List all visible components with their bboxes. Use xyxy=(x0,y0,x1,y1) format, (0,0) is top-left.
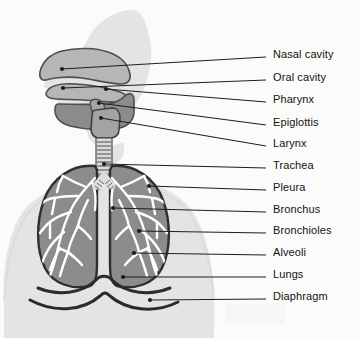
anchor-dot-trachea xyxy=(102,162,106,166)
larynx-shape xyxy=(91,108,120,138)
anchor-dot-diaphragm xyxy=(148,298,152,302)
anchor-dot-bronchus xyxy=(111,206,115,210)
label-pleura: Pleura xyxy=(273,182,305,193)
anchor-dot-alveoli xyxy=(132,251,136,255)
anchor-dot-nasal-cavity xyxy=(60,67,64,71)
respiratory-system-figure: Nasal cavityOral cavityPharynxEpiglottis… xyxy=(0,0,360,338)
label-nasal-cavity: Nasal cavity xyxy=(273,49,334,60)
label-bronchus: Bronchus xyxy=(273,204,320,215)
anchor-dot-lungs xyxy=(121,275,125,279)
label-oral-cavity: Oral cavity xyxy=(273,72,326,83)
anchor-dot-larynx xyxy=(99,116,103,120)
label-pharynx: Pharynx xyxy=(273,94,314,105)
anchor-dot-epiglottis xyxy=(97,101,101,105)
anchor-dot-pleura xyxy=(147,184,151,188)
label-lungs: Lungs xyxy=(273,269,303,280)
anchor-dot-oral-cavity xyxy=(61,86,65,90)
label-diaphragm: Diaphragm xyxy=(273,291,328,302)
anchor-dot-bronchioles xyxy=(137,229,141,233)
label-larynx: Larynx xyxy=(273,138,307,149)
label-epiglottis: Epiglottis xyxy=(273,117,319,128)
label-alveoli: Alveoli xyxy=(273,247,306,258)
leader-line-pleura xyxy=(149,186,266,190)
anchor-dot-pharynx xyxy=(104,87,108,91)
label-trachea: Trachea xyxy=(273,160,314,171)
label-bronchioles: Bronchioles xyxy=(273,225,332,236)
